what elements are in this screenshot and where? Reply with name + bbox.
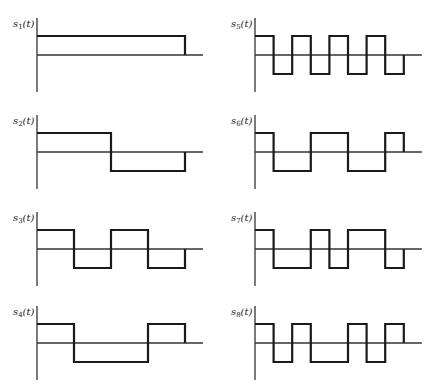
label-s2: s2(t) [13, 115, 35, 128]
label-s8: s8(t) [231, 306, 253, 319]
panel-s2: s2(t) [13, 115, 203, 189]
waveform-figure: s1(t)s2(t)s3(t)s4(t)s5(t)s6(t)s7(t)s8(t) [0, 0, 435, 389]
panel-s8: s8(t) [231, 306, 422, 380]
panel-s6: s6(t) [231, 115, 422, 189]
panel-s5: s5(t) [231, 18, 422, 92]
panel-s7: s7(t) [231, 212, 422, 286]
panel-s1: s1(t) [13, 18, 203, 92]
label-s4: s4(t) [13, 306, 35, 319]
label-s6: s6(t) [231, 115, 253, 128]
label-s3: s3(t) [13, 212, 35, 225]
waveform-s1 [37, 36, 185, 55]
panel-s4: s4(t) [13, 306, 203, 380]
label-s7: s7(t) [231, 212, 253, 225]
label-s1: s1(t) [13, 18, 35, 31]
panel-s3: s3(t) [13, 212, 203, 286]
label-s5: s5(t) [231, 18, 253, 31]
